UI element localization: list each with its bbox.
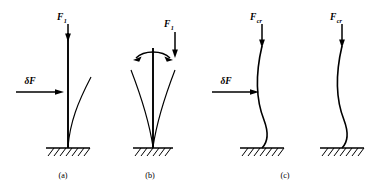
panel-d-buckled-column: [337, 46, 347, 148]
panel-c-delta-force-label: δF: [220, 76, 232, 86]
panel-c-caption: (c): [280, 171, 289, 180]
panel-d-hatch: [352, 148, 358, 156]
panel-a-hatch: [66, 148, 72, 156]
panel-b-hatch: [159, 148, 165, 156]
panel-b-hatch: [153, 148, 159, 156]
panel-a-hatch: [60, 148, 66, 156]
panel-b-hatch: [165, 148, 171, 156]
panel-b-caption: (b): [145, 171, 155, 180]
panel-a-hatch: [54, 148, 60, 156]
panel-c-hatch: [272, 148, 278, 156]
panel-a-delta-arrow-head: [55, 89, 64, 95]
panel-a-delta-force-arrow: [16, 89, 64, 95]
panel-c-delta-force-arrow: [212, 89, 259, 95]
panel-d-fixed-support: [320, 148, 364, 156]
panel-d-hatch: [358, 148, 364, 156]
panel-a-hatch: [84, 148, 90, 156]
panel-b-force-subscript: 1: [171, 24, 174, 31]
figure-root: F1 δF (a): [0, 0, 388, 189]
panel-d-hatch: [346, 148, 352, 156]
panel-a-force-subscript: 1: [64, 17, 67, 24]
panel-d-hatch: [322, 148, 328, 156]
panel-a-delta-force-label: δF: [24, 76, 36, 86]
panel-c-group: Fcr δF: [212, 12, 284, 156]
panel-c-force-subscript: cr: [257, 17, 263, 24]
panel-b-deflected-shape-right: [153, 70, 175, 147]
panel-c-hatch: [254, 148, 260, 156]
panel-c-buckled-column: [257, 46, 267, 148]
panel-c-force-label: Fcr: [249, 12, 262, 24]
panel-d-force-subscript: cr: [337, 17, 343, 24]
panel-b-deflected-shape-left: [131, 70, 153, 147]
buckling-diagram-canvas: F1 δF (a): [0, 0, 388, 189]
panel-a-caption: (a): [58, 171, 67, 180]
panel-a-hatch: [48, 148, 54, 156]
panel-b-force-label: F1: [163, 19, 174, 31]
panel-d-force-label: Fcr: [329, 12, 342, 24]
panel-d-axial-force-arrow: [339, 24, 345, 48]
panel-c-hatch: [242, 148, 248, 156]
panel-a-deflected-shape: [68, 77, 91, 147]
panel-d-group: Fcr: [320, 12, 364, 156]
panel-c-fixed-support: [240, 148, 284, 156]
panel-d-hatch: [328, 148, 334, 156]
panel-b-axial-force-arrow: [172, 32, 178, 58]
panel-c-hatch: [248, 148, 254, 156]
panel-b-force-arrow-head: [172, 50, 178, 59]
panel-c-hatch: [260, 148, 266, 156]
panel-c-hatch: [278, 148, 284, 156]
panel-c-axial-force-arrow: [259, 24, 265, 48]
panel-a-hatch: [78, 148, 84, 156]
panel-a-hatch: [72, 148, 78, 156]
panel-c-hatch: [266, 148, 272, 156]
panel-b-hatch: [147, 148, 153, 156]
panel-b-group: F1 (b): [131, 19, 178, 180]
panel-a-force-label: F1: [56, 12, 67, 24]
panel-d-hatch: [334, 148, 340, 156]
panel-a-fixed-support: [46, 148, 90, 156]
panel-b-hatch: [141, 148, 147, 156]
panel-b-hatch: [135, 148, 141, 156]
panel-d-hatch: [340, 148, 346, 156]
panel-b-fixed-support: [133, 148, 173, 156]
panel-a-group: F1 δF (a): [16, 12, 91, 180]
